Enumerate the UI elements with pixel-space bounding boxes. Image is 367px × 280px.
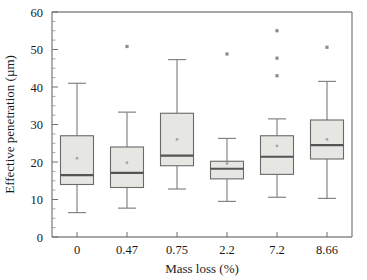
mean-marker [326, 138, 329, 141]
y-axis-title: Effective penetration (µm) [2, 55, 17, 194]
x-axis-title: Mass loss (%) [165, 261, 239, 276]
outlier-marker [225, 52, 228, 55]
box-group [161, 60, 194, 189]
y-tick-label: 20 [31, 156, 44, 170]
x-tick-label: 2.2 [219, 243, 235, 257]
box-group [311, 46, 344, 199]
x-tick-label: 8.66 [316, 243, 338, 257]
outlier-marker [325, 46, 328, 49]
x-tick-label: 0.47 [116, 243, 138, 257]
y-tick-label: 60 [31, 6, 44, 20]
y-tick-label: 30 [31, 118, 44, 132]
mean-marker [126, 161, 129, 164]
outlier-marker [275, 29, 278, 32]
chart-canvas: 010203040506000.470.752.27.28.66Mass los… [0, 0, 367, 280]
boxplot-figure: 010203040506000.470.752.27.28.66Mass los… [0, 0, 367, 280]
outlier-marker [275, 57, 278, 60]
outlier-marker [275, 74, 278, 77]
outlier-marker [125, 45, 128, 48]
box-group [61, 83, 94, 212]
y-tick-label: 50 [31, 43, 44, 57]
box-iqr [111, 147, 144, 188]
box-group [211, 52, 244, 201]
mean-marker [76, 157, 79, 160]
box-group [111, 45, 144, 208]
box-iqr [61, 136, 94, 185]
x-tick-label: 7.2 [269, 243, 285, 257]
mean-marker [226, 162, 229, 165]
mean-marker [176, 138, 179, 141]
x-tick-label: 0.75 [166, 243, 188, 257]
box-group [261, 29, 294, 197]
mean-marker [276, 144, 279, 147]
y-tick-label: 40 [31, 81, 44, 95]
x-tick-label: 0 [74, 243, 80, 257]
y-tick-label: 10 [31, 193, 44, 207]
y-tick-label: 0 [37, 231, 43, 245]
box-iqr [261, 136, 294, 175]
